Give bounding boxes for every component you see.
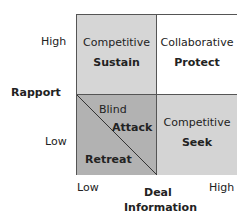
x-axis-title-line2: Information: [124, 201, 197, 214]
y-axis-low-label: Low: [45, 135, 67, 148]
x-axis-title-line1: Deal: [144, 186, 172, 199]
quadrant-strategy-label: Sustain: [77, 56, 156, 69]
y-axis-high-label: High: [41, 35, 66, 48]
x-axis-high-label: High: [209, 181, 234, 194]
quadrant-competitive-sustain: Competitive Sustain: [77, 15, 157, 95]
quadrant-style-label: Competitive: [77, 36, 156, 49]
retreat-label: Retreat: [85, 153, 132, 166]
attack-label: Attack: [112, 121, 152, 134]
quadrant-collaborative-protect: Collaborative Protect: [157, 15, 237, 95]
quadrant-strategy-label: Protect: [157, 56, 237, 69]
rapport-information-matrix: Competitive Sustain Collaborative Protec…: [76, 14, 237, 175]
quadrant-strategy-label: Seek: [157, 136, 237, 149]
quadrant-blind-attack-retreat: Blind Attack Retreat: [77, 95, 157, 175]
x-axis-low-label: Low: [77, 181, 99, 194]
quadrant-competitive-seek: Competitive Seek: [157, 95, 237, 175]
quadrant-style-label: Collaborative: [157, 36, 237, 49]
y-axis-title: Rapport: [11, 86, 61, 99]
quadrant-style-label: Competitive: [157, 116, 237, 129]
blind-label: Blind: [99, 103, 127, 116]
